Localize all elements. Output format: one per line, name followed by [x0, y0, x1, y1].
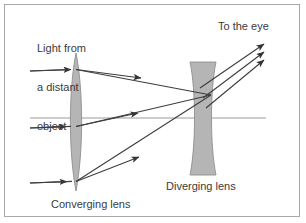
label-light-source-line-3: object [37, 120, 86, 133]
converging-ray-middle-full [76, 95, 211, 127]
label-light-source-line-1: Light from [37, 42, 86, 55]
incoming-ray-lower-tail [30, 181, 72, 183]
label-converging-lens: Converging lens [51, 198, 131, 211]
converging-ray-upper-full [76, 70, 211, 96]
label-to-the-eye: To the eye [218, 20, 269, 33]
converging-rays [76, 70, 211, 182]
label-diverging-lens: Diverging lens [166, 180, 236, 193]
label-light-source: Light from a distant object [37, 16, 86, 159]
label-light-source-line-2: a distant [37, 81, 86, 94]
optics-diagram-figure: Light from a distant object To the eye C… [0, 0, 306, 223]
